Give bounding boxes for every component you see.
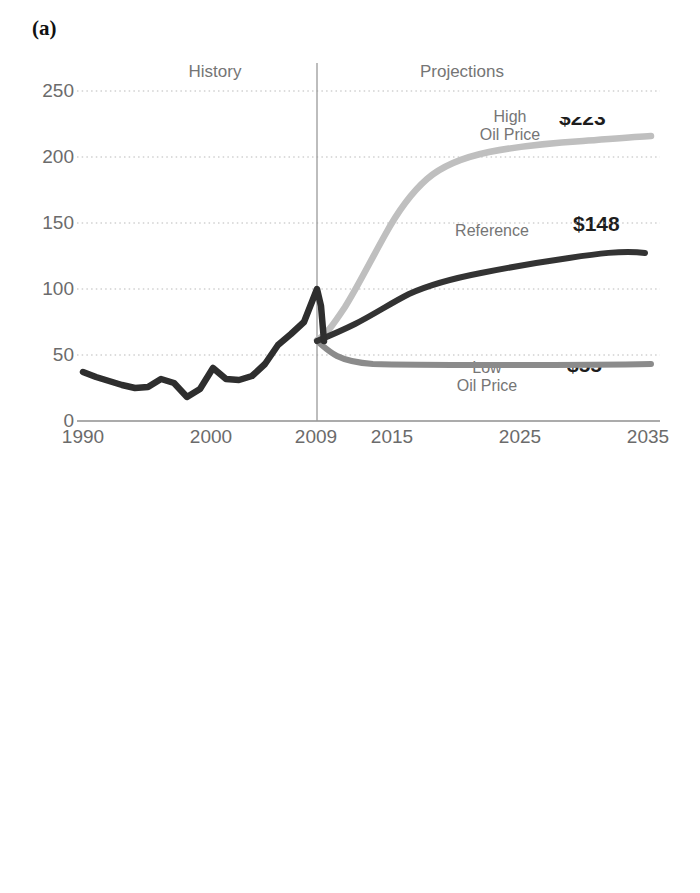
panel-a-series-low-oil-price — [317, 341, 651, 365]
panel-a-ytick-50: 50 — [18, 344, 74, 366]
panel-a-xtick-2009: 2009 — [276, 426, 356, 448]
panel-a-ytick-150: 150 — [18, 212, 74, 234]
panel-a-xtick-2000: 2000 — [171, 426, 251, 448]
panel-a-series-history — [83, 289, 324, 397]
panel-a-plot-area — [83, 91, 660, 421]
panel-a-xtick-2035: 2035 — [608, 426, 688, 448]
panel-a-region-projections: Projections — [392, 62, 532, 81]
panel-b: (b) Dollars per barrel (2009) Current Po… — [0, 448, 700, 893]
panel-a-svg — [83, 91, 660, 421]
panel-a-xtick-2025: 2025 — [480, 426, 560, 448]
panel-a-region-history: History — [160, 62, 270, 81]
figure-oil-price-projections: (a) 250 200 150 100 50 0 1990 2000 2009 … — [0, 0, 700, 893]
panel-a-xtick-1990: 1990 — [43, 426, 123, 448]
panel-a-ytick-250: 250 — [18, 80, 74, 102]
panel-a-series-high-oil-price — [317, 136, 651, 340]
panel-a-ytick-200: 200 — [18, 146, 74, 168]
panel-a-xtick-2015: 2015 — [352, 426, 432, 448]
panel-a-ytick-100: 100 — [18, 278, 74, 300]
panel-a: (a) 250 200 150 100 50 0 1990 2000 2009 … — [0, 0, 700, 448]
panel-a-label: (a) — [32, 16, 57, 41]
